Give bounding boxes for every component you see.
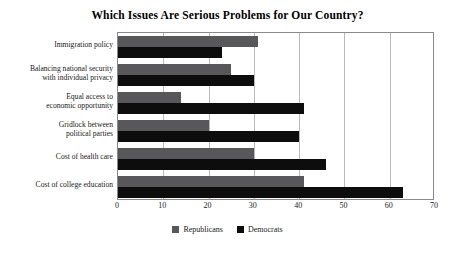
legend-swatch-icon [237, 226, 244, 233]
category-label-line: Balancing national security [0, 64, 113, 73]
x-tick-label-50: 50 [339, 201, 347, 210]
category-label-5: Cost of college education [0, 180, 113, 189]
bar-republicans-3 [118, 120, 209, 131]
bar-democrats-3 [118, 131, 299, 142]
bar-group [118, 145, 433, 173]
legend-item-democrats[interactable]: Democrats [237, 225, 283, 234]
chart-title: Which Issues Are Serious Problems for Ou… [0, 9, 455, 21]
category-label-line: with individual privacy [0, 73, 113, 82]
bar-republicans-1 [118, 64, 231, 75]
plot-area [117, 32, 434, 200]
category-label-line: Immigration policy [0, 40, 113, 49]
y-axis-category-labels: Immigration policyBalancing national sec… [0, 32, 113, 200]
bar-democrats-0 [118, 47, 222, 58]
category-label-1: Balancing national securitywith individu… [0, 64, 113, 83]
category-label-line: Cost of college education [0, 180, 113, 189]
bar-democrats-1 [118, 75, 254, 86]
category-label-4: Cost of health care [0, 152, 113, 161]
bar-democrats-2 [118, 103, 304, 114]
category-label-line: economic opportunity [0, 101, 113, 110]
legend-item-republicans[interactable]: Republicans [172, 225, 223, 234]
x-tick-label-40: 40 [294, 201, 302, 210]
bar-group [118, 33, 433, 61]
bar-democrats-4 [118, 159, 326, 170]
category-label-line: political parties [0, 129, 113, 138]
category-label-2: Equal access toeconomic opportunity [0, 92, 113, 111]
legend-label: Republicans [183, 225, 223, 234]
legend-label: Democrats [248, 225, 283, 234]
x-tick-label-30: 30 [249, 201, 257, 210]
bars-layer [118, 33, 433, 199]
bar-republicans-2 [118, 92, 181, 103]
bar-democrats-5 [118, 187, 403, 198]
chart-legend: RepublicansDemocrats [0, 225, 455, 234]
bar-republicans-5 [118, 176, 304, 187]
bar-group [118, 89, 433, 117]
x-tick-label-70: 70 [430, 201, 438, 210]
category-label-line: Gridlock between [0, 120, 113, 129]
bar-chart: Which Issues Are Serious Problems for Ou… [0, 0, 455, 256]
category-label-line: Equal access to [0, 92, 113, 101]
x-tick-label-0: 0 [115, 201, 119, 210]
category-label-3: Gridlock betweenpolitical parties [0, 120, 113, 139]
category-label-line: Cost of health care [0, 152, 113, 161]
bar-republicans-0 [118, 36, 258, 47]
bar-group [118, 117, 433, 145]
bar-group [118, 61, 433, 89]
x-tick-label-60: 60 [385, 201, 393, 210]
x-tick-label-10: 10 [158, 201, 166, 210]
bar-republicans-4 [118, 148, 254, 159]
legend-swatch-icon [172, 226, 179, 233]
x-tick-label-20: 20 [204, 201, 212, 210]
x-axis-ticks: 010203040506070 [117, 201, 434, 215]
bar-group [118, 173, 433, 201]
category-label-0: Immigration policy [0, 40, 113, 49]
